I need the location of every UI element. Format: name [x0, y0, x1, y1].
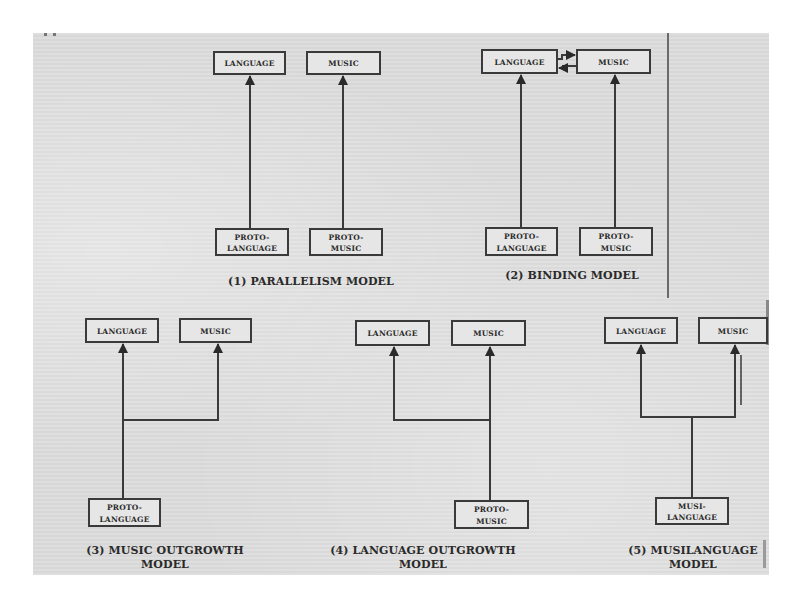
proto-language-box: PROTO- LANGUAGE	[89, 499, 160, 526]
music-box: MUSIC	[577, 50, 650, 73]
proto-music-label-line1: PROTO-	[474, 505, 509, 514]
musilanguage-label-line2: LANGUAGE	[667, 513, 717, 522]
caption-line1: (5) MUSILANGUAGE	[608, 544, 778, 558]
caption-music-outgrowth-model: (3) MUSIC OUTGROWTH MODEL	[70, 544, 260, 572]
music-outgrowth-model: LANGUAGE MUSIC PROTO- LANGUAGE	[86, 319, 251, 526]
caption-line1: (4) LANGUAGE OUTGROWTH	[318, 544, 528, 558]
caption-parallelism-model: (1) PARALLELISM MODEL	[226, 275, 396, 289]
proto-music-label-line1: PROTO-	[328, 233, 363, 242]
proto-music-label-line1: PROTO-	[598, 232, 633, 241]
arrow-music-to-language	[559, 66, 577, 68]
musilanguage-label-line1: MUSI-	[678, 502, 706, 511]
caption-line1: (3) MUSIC OUTGROWTH	[70, 544, 260, 558]
music-box: MUSIC	[180, 319, 251, 342]
language-box: LANGUAGE	[86, 319, 158, 342]
caption-line1: (1) PARALLELISM MODEL	[226, 275, 396, 289]
proto-music-box: PROTO- MUSIC	[455, 501, 528, 528]
parallelism-model: LANGUAGE MUSIC PROTO- LANGUAGE PROTO- MU…	[214, 52, 382, 255]
language-label: LANGUAGE	[97, 327, 147, 336]
proto-language-box: PROTO- LANGUAGE	[216, 229, 288, 255]
language-outgrowth-model: LANGUAGE MUSIC PROTO- MUSIC	[356, 321, 528, 528]
music-label: MUSIC	[473, 329, 504, 338]
music-label: MUSIC	[718, 327, 749, 336]
arrow-proto-language-to-music	[123, 344, 218, 420]
music-label: MUSIC	[328, 59, 359, 68]
proto-language-label-line1: PROTO-	[107, 503, 142, 512]
proto-music-box: PROTO- MUSIC	[310, 229, 382, 255]
caption-line2: MODEL	[70, 558, 260, 572]
proto-music-label-line2: MUSIC	[476, 517, 507, 526]
proto-music-box: PROTO- MUSIC	[580, 228, 652, 255]
proto-language-label-line2: LANGUAGE	[496, 244, 546, 253]
music-box: MUSIC	[307, 52, 380, 74]
caption-line2: MODEL	[608, 558, 778, 572]
language-box: LANGUAGE	[482, 50, 557, 73]
proto-language-label-line1: PROTO-	[504, 232, 539, 241]
language-box: LANGUAGE	[605, 318, 677, 343]
language-label: LANGUAGE	[494, 58, 544, 67]
caption-language-outgrowth-model: (4) LANGUAGE OUTGROWTH MODEL	[318, 544, 528, 572]
music-box: MUSIC	[452, 321, 525, 345]
language-label: LANGUAGE	[224, 59, 274, 68]
musilanguage-box: MUSI- LANGUAGE	[656, 498, 728, 524]
proto-language-label-line2: LANGUAGE	[99, 515, 149, 524]
language-box: LANGUAGE	[214, 52, 285, 74]
models-diagram: LANGUAGE MUSIC PROTO- LANGUAGE PROTO- MU…	[0, 0, 802, 615]
music-label: MUSIC	[598, 58, 629, 67]
arrow-musilanguage-to-language	[641, 345, 692, 417]
language-box: LANGUAGE	[356, 321, 429, 345]
language-label: LANGUAGE	[367, 329, 417, 338]
music-box: MUSIC	[699, 318, 767, 343]
proto-language-label-line1: PROTO-	[234, 233, 269, 242]
arrow-language-to-music	[557, 55, 575, 59]
caption-line1: (2) BINDING MODEL	[492, 269, 652, 283]
proto-music-label-line2: MUSIC	[601, 244, 632, 253]
musilanguage-model: LANGUAGE MUSIC MUSI- LANGUAGE	[605, 318, 767, 524]
proto-language-box: PROTO- LANGUAGE	[486, 228, 557, 255]
music-label: MUSIC	[200, 327, 231, 336]
language-label: LANGUAGE	[616, 327, 666, 336]
proto-language-label-line2: LANGUAGE	[227, 244, 277, 253]
binding-model: LANGUAGE MUSIC PROTO- LANGUAGE PROTO- MU…	[482, 50, 652, 255]
caption-binding-model: (2) BINDING MODEL	[492, 269, 652, 283]
arrow-proto-music-to-language	[394, 347, 490, 420]
proto-music-label-line2: MUSIC	[331, 244, 362, 253]
caption-musilanguage-model: (5) MUSILANGUAGE MODEL	[608, 544, 778, 572]
caption-line2: MODEL	[318, 558, 528, 572]
arrow-musilanguage-to-music	[692, 345, 735, 417]
